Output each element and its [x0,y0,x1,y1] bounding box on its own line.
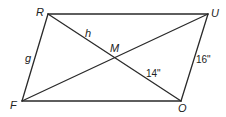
segment-label-UO: 16" [196,54,211,65]
vertex-label-O: O [178,102,187,114]
diagonal-FU [22,14,208,101]
segment-label-h: h [85,27,91,39]
intersection-label-M: M [110,42,120,54]
segment-label-g: g [25,52,32,64]
vertex-label-U: U [211,7,219,19]
vertex-label-R: R [36,6,44,18]
parallelogram-diagram: R U O F M h g 14" 16" [0,0,226,117]
diagram-canvas: R U O F M h g 14" 16" [0,0,226,117]
segment-label-MO: 14" [146,68,161,79]
vertex-label-F: F [10,99,18,111]
